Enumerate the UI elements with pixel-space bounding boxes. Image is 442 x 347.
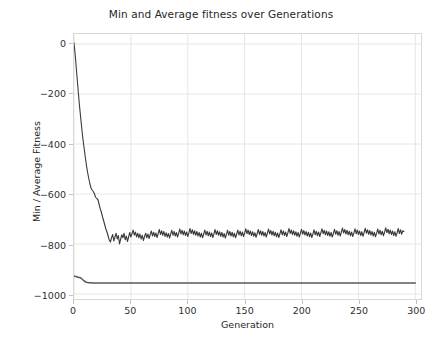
x-tick-label: 0 [70,305,76,316]
series-line [74,43,404,244]
x-tick-mark [302,300,303,304]
series-line [74,276,415,283]
chart-title: Min and Average fitness over Generations [0,8,442,20]
plot-area [73,33,422,300]
y-tick-label: −800 [0,239,66,250]
chart-figure: Min and Average fitness over Generations… [0,0,442,347]
x-tick-label: 250 [350,305,368,316]
x-tick-label: 200 [293,305,311,316]
data-series-lines [74,34,421,299]
y-tick-label: 0 [0,38,66,49]
y-tick-label: −600 [0,189,66,200]
x-tick-label: 100 [178,305,196,316]
x-tick-mark [73,300,74,304]
x-tick-mark [359,300,360,304]
y-tick-label: −400 [0,138,66,149]
x-tick-label: 50 [124,305,136,316]
x-tick-label: 300 [407,305,425,316]
x-tick-mark [187,300,188,304]
x-axis-label: Generation [73,319,422,330]
x-tick-mark [245,300,246,304]
x-tick-mark [416,300,417,304]
y-tick-label: −200 [0,88,66,99]
y-tick-label: −1000 [0,289,66,300]
x-tick-label: 150 [236,305,254,316]
x-tick-mark [130,300,131,304]
